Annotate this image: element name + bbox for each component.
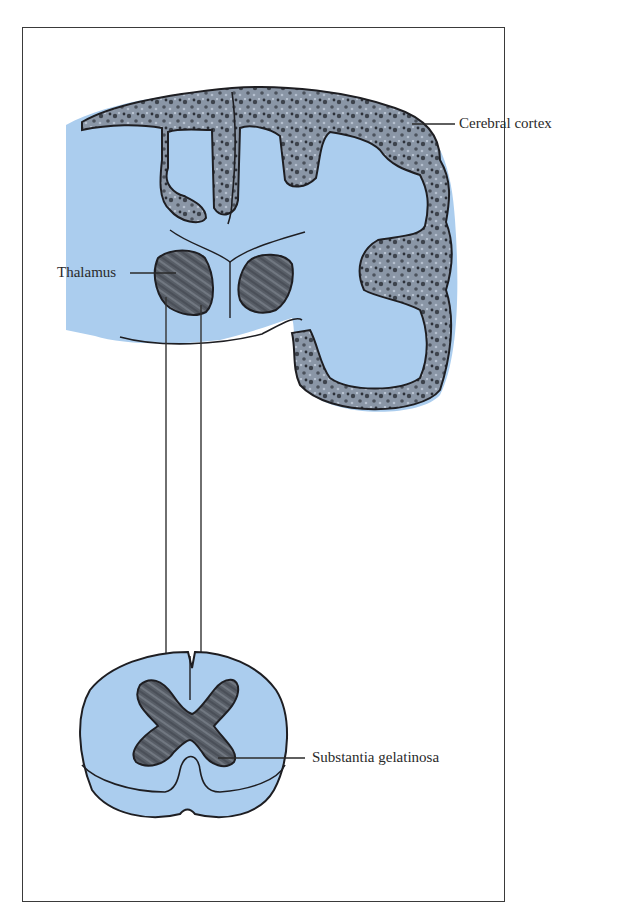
- brain-coronal-section: [66, 87, 457, 412]
- anatomy-illustration: [0, 0, 637, 915]
- label-substantia-gelatinosa: Substantia gelatinosa: [312, 750, 439, 765]
- spinal-cord-section: [80, 652, 305, 817]
- label-cerebral-cortex: Cerebral cortex: [459, 116, 552, 131]
- label-thalamus: Thalamus: [57, 265, 116, 280]
